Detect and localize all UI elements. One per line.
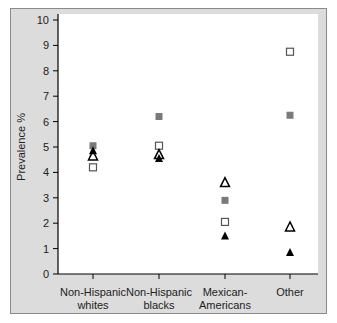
y-tick-label: 9: [43, 39, 49, 51]
scatter-chart: 012345678910 Non-HispanicwhitesNon-Hispa…: [0, 0, 337, 323]
x-category-label: blacks: [143, 299, 175, 311]
y-tick-label: 4: [43, 166, 49, 178]
data-point-square-open: [222, 218, 229, 225]
data-point-square-open: [287, 48, 294, 55]
x-axis: Non-HispanicwhitesNon-HispanicblacksMexi…: [58, 274, 318, 311]
y-tick-label: 5: [43, 141, 49, 153]
data-point-square-filled: [222, 197, 229, 204]
x-category-label: Mexican-: [203, 286, 248, 298]
y-tick-label: 10: [37, 14, 49, 26]
y-tick-label: 3: [43, 192, 49, 204]
y-tick-label: 1: [43, 243, 49, 255]
y-axis: 012345678910: [37, 14, 58, 280]
x-category-label: Non-Hispanic: [60, 286, 127, 298]
x-category-label: Americans: [199, 299, 251, 311]
plot-area: [58, 14, 318, 274]
y-tick-label: 0: [43, 268, 49, 280]
x-category-label: Other: [276, 286, 304, 298]
y-axis-label: Prevalence %: [15, 113, 27, 181]
y-tick-label: 6: [43, 116, 49, 128]
x-category-label: whites: [76, 299, 109, 311]
data-point-square-filled: [156, 113, 163, 120]
y-tick-label: 2: [43, 217, 49, 229]
y-tick-label: 8: [43, 65, 49, 77]
data-point-square-filled: [287, 112, 294, 119]
x-category-label: Non-Hispanic: [126, 286, 193, 298]
data-point-square-open: [90, 164, 97, 171]
y-tick-label: 7: [43, 90, 49, 102]
